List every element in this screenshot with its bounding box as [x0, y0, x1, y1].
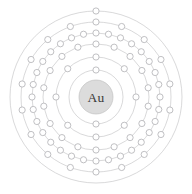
electron-m-13: [47, 120, 53, 126]
electron-o-9: [119, 164, 125, 170]
electron-m-8: [127, 135, 133, 141]
electron-o-16: [28, 56, 34, 62]
nucleus: Au: [79, 80, 113, 114]
electron-m-1: [93, 41, 99, 47]
electron-o-15: [19, 81, 25, 87]
electron-o-3: [141, 36, 147, 42]
electron-n-22: [40, 129, 46, 135]
electron-n-21: [48, 139, 54, 145]
electron-n-31: [68, 35, 74, 41]
electron-n-12: [146, 129, 152, 135]
electron-n-15: [117, 153, 123, 159]
electron-l-5: [93, 134, 99, 140]
electron-n-1: [93, 30, 99, 36]
electron-o-2: [119, 23, 125, 29]
electron-l-3: [133, 94, 139, 100]
electron-m-14: [41, 103, 47, 109]
electron-n-32: [80, 31, 86, 37]
electron-n-2: [105, 31, 111, 37]
electron-n-16: [105, 157, 111, 163]
electron-n-6: [146, 58, 152, 64]
electron-n-11: [152, 118, 158, 124]
electron-n-30: [57, 41, 63, 47]
electron-n-23: [34, 118, 40, 124]
electron-o-8: [141, 151, 147, 157]
electron-o-14: [19, 107, 25, 113]
electron-m-3: [127, 53, 133, 59]
electron-n-18: [80, 157, 86, 163]
electron-m-6: [145, 103, 151, 109]
electron-o-7: [158, 131, 164, 137]
electron-n-25: [29, 94, 35, 100]
electron-o-18: [67, 23, 73, 29]
electron-n-28: [40, 58, 46, 64]
electron-n-27: [34, 69, 40, 75]
shell-diagram-canvas: Au: [0, 0, 192, 194]
electron-l-6: [65, 122, 71, 128]
electron-m-17: [59, 53, 65, 59]
electron-o-1: [93, 19, 99, 25]
electron-n-5: [138, 49, 144, 55]
electron-n-14: [128, 147, 134, 153]
electron-o-6: [167, 107, 173, 113]
electron-m-10: [93, 147, 99, 153]
electron-m-15: [41, 85, 47, 91]
electron-k-2: [93, 121, 99, 127]
electron-n-8: [156, 81, 162, 87]
electron-m-5: [145, 85, 151, 91]
electron-o-12: [45, 151, 51, 157]
element-symbol-label: Au: [88, 90, 105, 105]
electron-m-11: [75, 144, 81, 150]
electron-o-13: [28, 131, 34, 137]
electron-k-1: [93, 67, 99, 73]
electron-m-9: [111, 144, 117, 150]
electron-n-17: [93, 158, 99, 164]
electron-n-20: [57, 147, 63, 153]
electron-n-29: [48, 49, 54, 55]
electron-l-1: [93, 54, 99, 60]
electron-m-16: [47, 67, 53, 73]
electron-l-8: [65, 66, 71, 72]
electron-shell-diagram: Au: [0, 0, 192, 194]
electron-n-3: [117, 35, 123, 41]
electron-m-18: [75, 44, 81, 50]
electron-o-5: [167, 81, 173, 87]
electron-n-10: [156, 106, 162, 112]
electron-l-4: [121, 122, 127, 128]
electron-p-1: [93, 8, 99, 14]
electron-o-11: [67, 164, 73, 170]
electron-n-24: [30, 106, 36, 112]
electron-o-10: [93, 169, 99, 175]
electron-o-17: [45, 36, 51, 42]
electron-m-2: [111, 44, 117, 50]
electron-n-19: [68, 153, 74, 159]
electron-n-26: [30, 81, 36, 87]
electron-l-2: [121, 66, 127, 72]
electron-n-7: [152, 69, 158, 75]
electron-m-4: [139, 67, 145, 73]
electron-n-9: [157, 94, 163, 100]
electron-l-7: [53, 94, 59, 100]
electron-n-13: [138, 139, 144, 145]
electron-n-4: [128, 41, 134, 47]
electron-m-12: [59, 135, 65, 141]
electron-m-7: [139, 120, 145, 126]
electron-o-4: [158, 56, 164, 62]
